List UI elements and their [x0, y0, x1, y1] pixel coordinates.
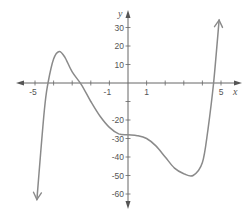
polynomial-graph: -5-115 x 302010-20-30-40-50-60 y [0, 0, 249, 220]
x-tick-label: 5 [219, 87, 224, 97]
x-axis-label: x [232, 86, 238, 97]
x-tick-label: 1 [144, 87, 149, 97]
y-tick-label: -40 [112, 152, 125, 162]
y-axis-label: y [117, 8, 123, 19]
x-tick-label: -1 [104, 87, 112, 97]
x-axis-left-arrow-icon [16, 81, 24, 86]
y-tick-label: 30 [115, 23, 125, 33]
y-tick-label: 10 [115, 60, 125, 70]
x-axis: -5-115 x [16, 81, 242, 98]
y-axis: 302010-20-30-40-50-60 y [112, 8, 131, 209]
y-tick-label: -60 [112, 189, 125, 199]
y-axis-bottom-arrow-icon [126, 201, 131, 209]
x-axis-right-arrow-icon [234, 81, 242, 86]
y-tick-label: -20 [112, 115, 125, 125]
x-tick-label: -5 [29, 87, 37, 97]
y-tick-label: 20 [115, 41, 125, 51]
y-axis-top-arrow-icon [126, 10, 131, 18]
y-tick-label: -50 [112, 171, 125, 181]
